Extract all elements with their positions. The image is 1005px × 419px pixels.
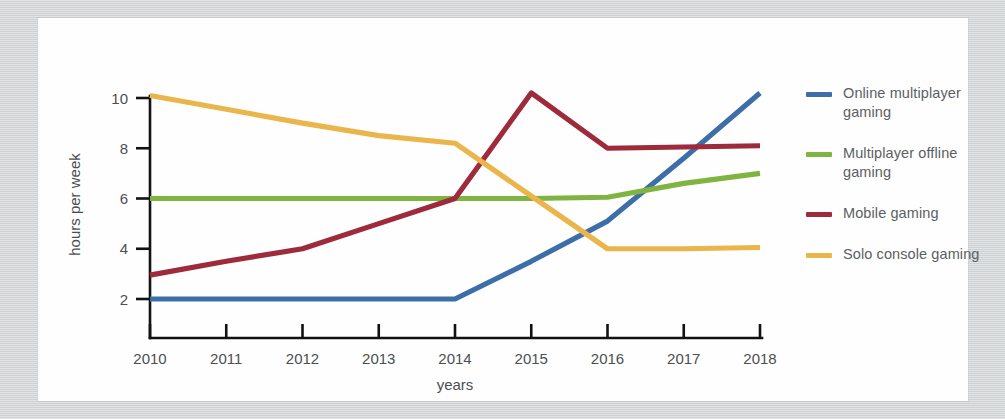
- svg-text:8: 8: [120, 140, 128, 157]
- legend-item[interactable]: Solo console gaming: [806, 245, 986, 264]
- svg-text:2010: 2010: [133, 350, 166, 367]
- legend-swatch-solo-console-gaming: [806, 253, 832, 258]
- chart-card: 246810hours per week20102011201220132014…: [38, 18, 968, 401]
- line-chart: 246810hours per week20102011201220132014…: [38, 18, 798, 401]
- svg-text:2015: 2015: [515, 350, 548, 367]
- svg-text:years: years: [437, 376, 474, 393]
- chart-legend: Online multiplayer gaming Multiplayer of…: [806, 84, 986, 286]
- legend-item[interactable]: Multiplayer offline gaming: [806, 144, 986, 182]
- svg-text:2018: 2018: [743, 350, 776, 367]
- svg-text:2014: 2014: [438, 350, 471, 367]
- legend-swatch-multiplayer-offline-gaming: [806, 152, 832, 157]
- screenshot-root: 246810hours per week20102011201220132014…: [0, 0, 1005, 419]
- svg-text:2017: 2017: [667, 350, 700, 367]
- legend-label: Mobile gaming: [843, 204, 939, 223]
- svg-text:hours per week: hours per week: [66, 153, 83, 256]
- legend-label: Online multiplayer gaming: [843, 84, 986, 122]
- svg-text:2: 2: [120, 291, 128, 308]
- legend-item[interactable]: Mobile gaming: [806, 204, 986, 223]
- svg-text:10: 10: [111, 90, 128, 107]
- legend-swatch-mobile-gaming: [806, 212, 832, 217]
- legend-label: Multiplayer offline gaming: [843, 144, 986, 182]
- legend-item[interactable]: Online multiplayer gaming: [806, 84, 986, 122]
- svg-text:2013: 2013: [362, 350, 395, 367]
- legend-label: Solo console gaming: [843, 245, 980, 264]
- svg-text:4: 4: [120, 240, 128, 257]
- legend-swatch-online-multiplayer-gaming: [806, 92, 832, 97]
- svg-text:6: 6: [120, 190, 128, 207]
- plot-area: 246810hours per week20102011201220132014…: [38, 18, 798, 401]
- svg-text:2011: 2011: [210, 350, 242, 367]
- svg-text:2012: 2012: [286, 350, 319, 367]
- svg-text:2016: 2016: [591, 350, 624, 367]
